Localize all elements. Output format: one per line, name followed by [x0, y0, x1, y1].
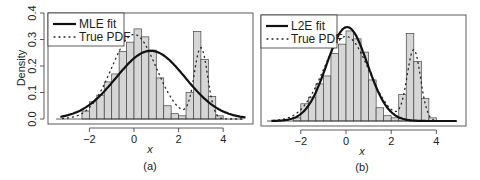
histogram-bar — [384, 116, 392, 121]
histogram-bar — [171, 114, 178, 119]
y-tick-label: 0.1 — [26, 85, 38, 100]
histogram-bar — [346, 31, 354, 121]
x-axis-label-b: x — [358, 145, 365, 157]
y-tick-label: 0.0 — [26, 111, 38, 126]
legend-label-l2e: L2E fit — [291, 19, 326, 33]
y-axis-label: Density — [15, 49, 27, 86]
x-axis-a: −2024 — [83, 128, 226, 145]
x-axis-b: −2024 — [295, 130, 440, 147]
histogram-bar — [156, 78, 163, 119]
histogram-bar — [141, 37, 148, 119]
histogram-bar — [201, 59, 208, 119]
caption-b: (b) — [355, 161, 368, 173]
x-tick-label: −2 — [295, 135, 308, 147]
x-tick-label: 0 — [343, 135, 349, 147]
legend-label-true-pdf-b: True PDF — [291, 32, 343, 46]
panel-a-chart: 0.00.10.20.30.4 −2024 MLE fit True PDF D… — [15, 5, 253, 172]
legend-b: L2E fit True PDF — [261, 15, 343, 48]
histogram-bar — [323, 76, 331, 121]
x-tick-label: 2 — [388, 135, 394, 147]
histogram-bar — [82, 111, 89, 119]
histogram-bar — [354, 39, 362, 121]
caption-a: (a) — [143, 160, 156, 172]
histogram-bar — [119, 51, 126, 119]
y-tick-label: 0.3 — [26, 32, 38, 47]
x-tick-label: 2 — [176, 133, 182, 145]
histogram-bar — [127, 42, 134, 119]
panel-b-chart: −2024 L2E fit True PDF x (b) — [261, 15, 466, 173]
histogram-bar — [391, 118, 399, 121]
y-tick-label: 0.2 — [26, 58, 38, 73]
legend-label-true-pdf-a: True PDF — [79, 30, 131, 44]
histogram-bar — [179, 116, 186, 119]
legend-a: MLE fit True PDF — [48, 13, 131, 46]
y-tick-label: 0.4 — [26, 5, 38, 20]
histogram-bar — [406, 34, 414, 121]
x-tick-label: −2 — [83, 133, 96, 145]
histogram-bar — [338, 44, 346, 121]
x-tick-label: 4 — [433, 135, 439, 147]
histogram-bar — [414, 61, 422, 121]
histogram-bar — [193, 32, 200, 119]
histogram-bar — [376, 108, 384, 121]
histogram-bar — [134, 29, 141, 119]
y-axis-a: 0.00.10.20.30.4 — [26, 5, 44, 126]
histogram-bar — [164, 106, 171, 119]
histogram-bar — [331, 53, 339, 121]
legend-label-mle: MLE fit — [79, 17, 117, 31]
x-tick-label: 0 — [131, 133, 137, 145]
x-axis-label-a: x — [146, 143, 153, 155]
figure: 0.00.10.20.30.4 −2024 MLE fit True PDF D… — [0, 0, 480, 180]
x-tick-label: 4 — [220, 133, 226, 145]
